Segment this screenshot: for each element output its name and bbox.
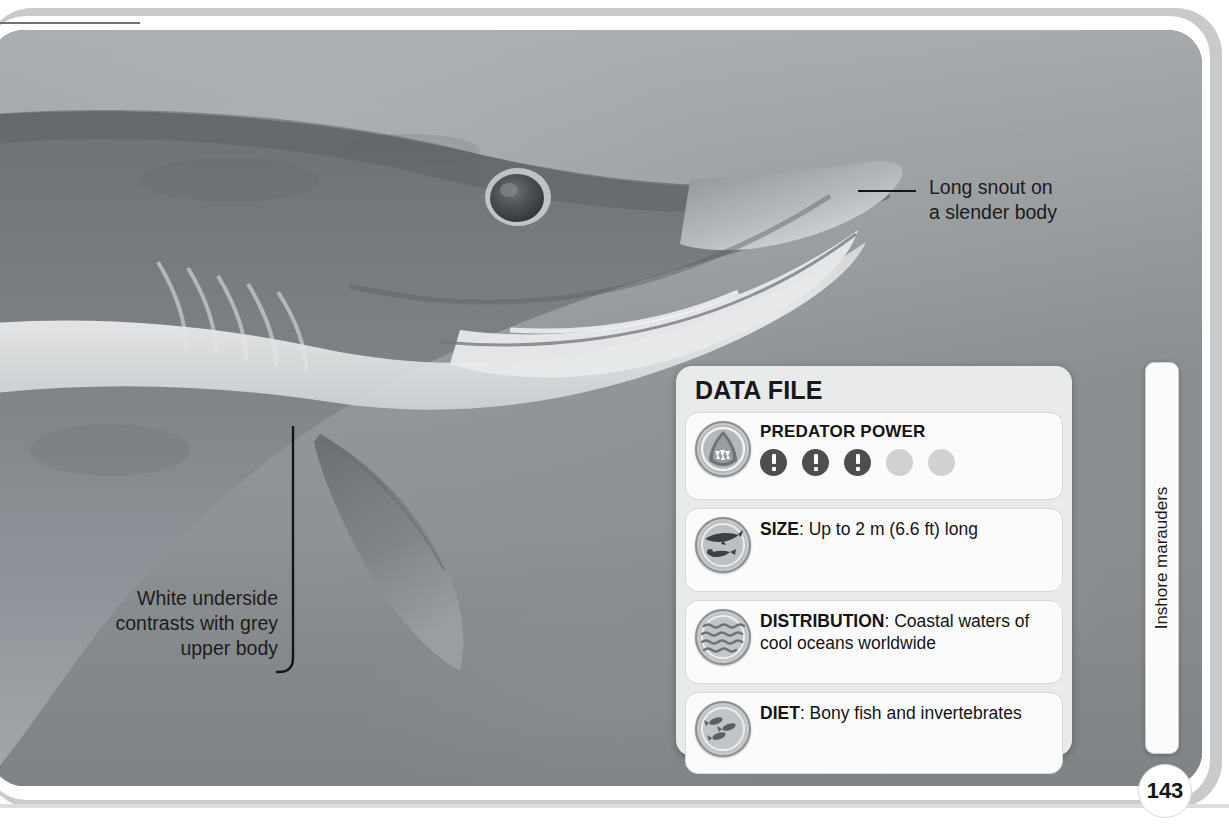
shark-snout	[680, 161, 902, 250]
data-row-text-distribution: DISTRIBUTION: Coastal waters of cool oce…	[760, 610, 1052, 654]
data-row-predator-power: PREDATOR POWER	[685, 412, 1063, 500]
power-dot-filled	[760, 449, 787, 476]
predator-power-rating	[760, 449, 1052, 476]
data-row-distribution: DISTRIBUTION: Coastal waters of cool oce…	[685, 600, 1063, 684]
data-row-diet: DIET: Bony fish and invertebrates	[685, 692, 1063, 774]
data-row-label-predator-power: PREDATOR POWER	[760, 422, 1052, 442]
fish-shoal-icon	[695, 701, 751, 757]
data-row-label-diet: DIET	[760, 703, 800, 723]
shark-eye	[490, 174, 544, 222]
colon: :	[800, 703, 810, 723]
power-dot-empty	[928, 449, 955, 476]
data-row-value-size: Up to 2 m (6.6 ft) long	[809, 519, 978, 539]
data-file-title: DATA FILE	[695, 376, 1063, 405]
data-file-panel: DATA FILE	[676, 366, 1072, 756]
data-row-text-size: SIZE: Up to 2 m (6.6 ft) long	[760, 518, 1052, 540]
shark-photograph: Long snout on a slender body White under…	[0, 30, 1202, 786]
leader-line-underside	[276, 426, 310, 674]
book-page: Long snout on a slender body White under…	[0, 0, 1229, 825]
colon: :	[884, 611, 894, 631]
shark-eye-highlight	[500, 183, 518, 197]
shark-pectoral-fin	[314, 434, 463, 670]
annotation-long-snout: Long snout on a slender body	[929, 175, 1057, 225]
data-row-label-distribution: DISTRIBUTION	[760, 611, 884, 631]
chapter-side-tab: Inshore marauders	[1145, 362, 1179, 754]
power-dot-filled	[844, 449, 871, 476]
data-row-text-diet: DIET: Bony fish and invertebrates	[760, 702, 1052, 724]
shark-diver-scale-icon	[695, 517, 751, 573]
shark-jaws-icon	[695, 421, 751, 477]
top-rule	[0, 22, 140, 24]
colon: :	[799, 519, 809, 539]
page-number: 143	[1138, 764, 1192, 818]
chapter-side-tab-label: Inshore marauders	[1152, 487, 1172, 630]
bottom-margin	[0, 808, 1229, 825]
power-dot-empty	[886, 449, 913, 476]
leader-line-snout	[858, 190, 916, 192]
ocean-waves-icon	[695, 609, 751, 665]
data-row-size: SIZE: Up to 2 m (6.6 ft) long	[685, 508, 1063, 592]
annotation-white-underside: White underside contrasts with grey uppe…	[8, 586, 278, 661]
data-row-label-size: SIZE	[760, 519, 799, 539]
power-dot-filled	[802, 449, 829, 476]
data-row-value-diet: Bony fish and invertebrates	[810, 703, 1022, 723]
